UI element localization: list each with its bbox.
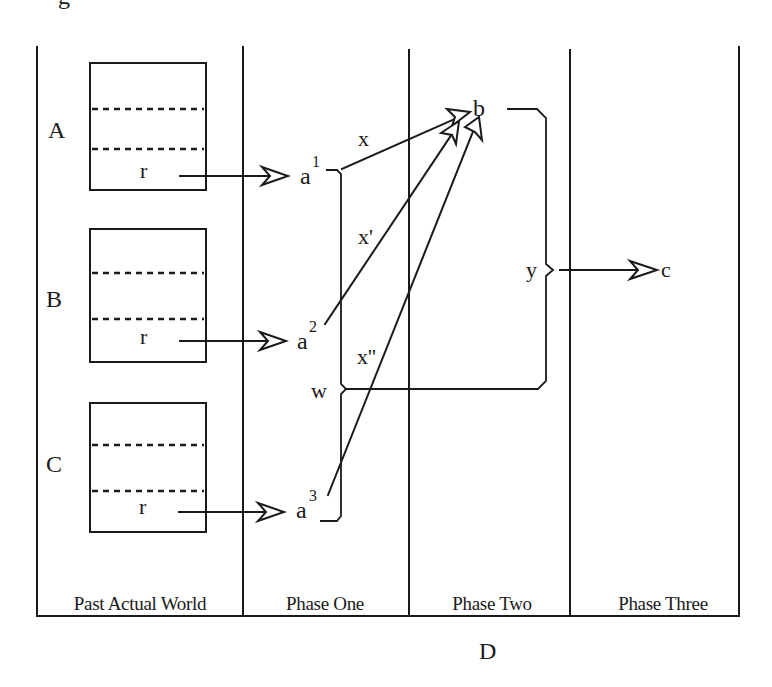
y-label: y bbox=[526, 257, 537, 282]
world-box-a bbox=[90, 63, 206, 190]
node-a3-sup: 3 bbox=[309, 487, 317, 504]
world-label-b: B bbox=[46, 286, 62, 312]
column-label-phase-two: Phase Two bbox=[452, 593, 532, 614]
world-b: B r bbox=[46, 229, 286, 362]
record-label-c: r bbox=[139, 494, 147, 519]
node-a1-base: a bbox=[300, 163, 311, 189]
node-c: c bbox=[661, 257, 671, 282]
y-brace bbox=[507, 109, 553, 389]
node-a2-sup: 2 bbox=[309, 318, 317, 335]
links-to-b: x x' x'' bbox=[325, 109, 482, 495]
column-label-past-actual-world: Past Actual World bbox=[74, 593, 207, 614]
node-a3-base: a bbox=[296, 497, 307, 523]
node-b: b bbox=[473, 95, 485, 121]
w-label: w bbox=[311, 378, 327, 403]
w-brace bbox=[320, 170, 346, 521]
node-a2-base: a bbox=[297, 328, 308, 354]
link-label-x: x bbox=[358, 126, 369, 151]
record-label-a: r bbox=[140, 158, 148, 183]
phase-diagram: g Past Actual World Phase One Phase Two … bbox=[0, 0, 772, 687]
column-label-phase-three: Phase Three bbox=[618, 593, 708, 614]
world-a: A r bbox=[48, 63, 288, 190]
figure-footer-label: D bbox=[479, 638, 496, 664]
world-c: C r bbox=[46, 403, 284, 532]
phase-one-nodes: a 1 a 2 a 3 bbox=[296, 153, 320, 523]
world-label-c: C bbox=[46, 451, 62, 477]
world-label-a: A bbox=[48, 117, 66, 143]
link-x-double-prime bbox=[328, 124, 476, 495]
column-label-phase-one: Phase One bbox=[286, 593, 364, 614]
column-labels: Past Actual World Phase One Phase Two Ph… bbox=[74, 593, 708, 614]
link-label-x-double-prime: x'' bbox=[357, 344, 376, 369]
node-a1-sup: 1 bbox=[312, 153, 320, 170]
record-label-b: r bbox=[140, 324, 148, 349]
link-label-x-prime: x' bbox=[358, 224, 373, 249]
world-box-b bbox=[90, 229, 206, 362]
figure-title-fragment: g bbox=[58, 0, 70, 9]
